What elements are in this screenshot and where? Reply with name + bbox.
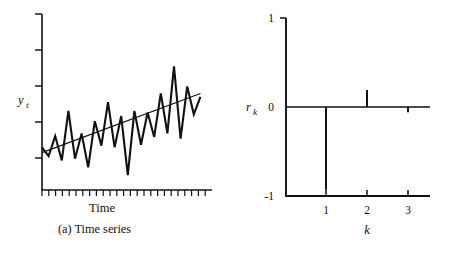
y-tick-label-1: 1 — [268, 12, 274, 24]
y-axis-label-sub-a: t — [26, 100, 29, 110]
y-axis-label-b: r — [246, 100, 251, 114]
x-tick-label-3: 3 — [405, 204, 411, 216]
x-tick-label-1: 1 — [323, 204, 329, 216]
panel-time-series: y t Time (a) Time series — [0, 0, 230, 271]
x-axis-ticks-a — [42, 190, 205, 196]
y-axis-label-sub-b: k — [253, 107, 258, 117]
x-tick-label-2: 2 — [364, 204, 370, 216]
panel-a-caption: (a) Time series — [58, 222, 131, 237]
x-axis-label-a: Time — [89, 201, 115, 215]
y-tick-label-minus-1: -1 — [264, 190, 274, 202]
correlogram-spikes — [326, 90, 408, 190]
panel-correlogram: 1 0 -1 1 2 3 r k k (b) Correlogram — [230, 0, 457, 271]
y-axis-label-a: y — [16, 93, 24, 107]
x-axis-label-b: k — [364, 223, 370, 237]
y-axis-ticks-a — [35, 14, 42, 158]
figure-container: y t Time (a) Time series — [0, 0, 457, 271]
time-series-line — [42, 66, 200, 175]
y-tick-label-0: 0 — [268, 101, 274, 113]
correlogram-chart: 1 0 -1 1 2 3 r k k — [230, 0, 457, 271]
